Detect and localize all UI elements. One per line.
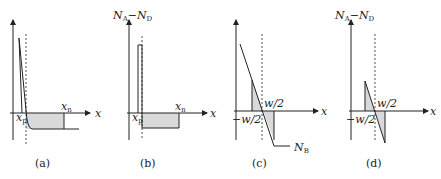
panel-d: x NA−ND −w/2 w/2 (d) [334,9,437,170]
svg-text:x: x [210,107,217,120]
y-axis-label: NA−ND [112,9,153,23]
caption-b: (b) [140,157,156,170]
caption-c: (c) [252,157,267,170]
svg-text:−w/2: −w/2 [232,113,261,126]
nb-label: NB [293,141,309,155]
caption-a: (a) [35,157,50,170]
svg-text:w/2: w/2 [377,97,397,110]
svg-text:x: x [430,105,437,118]
xn-label: xn [61,100,72,114]
panel-b: x NA−ND xp xn (b) [112,9,217,170]
doping-profile-figure: x xp xn (a) x NA−ND xp xn (b) x −w/2 w/2… [0,0,441,179]
shaded-region [26,113,64,129]
profile-curve [240,44,290,146]
svg-text:−w/2: −w/2 [346,113,375,126]
panel-c: x −w/2 w/2 NB (c) [232,20,328,170]
x-axis-label: x [95,107,102,120]
svg-text:w/2: w/2 [264,97,284,110]
caption-d: (d) [366,157,382,170]
svg-text:NA−ND: NA−ND [334,9,375,23]
svg-text:x: x [321,105,328,118]
panel-a: x xp xn (a) [10,20,102,170]
svg-text:xn: xn [175,100,186,114]
